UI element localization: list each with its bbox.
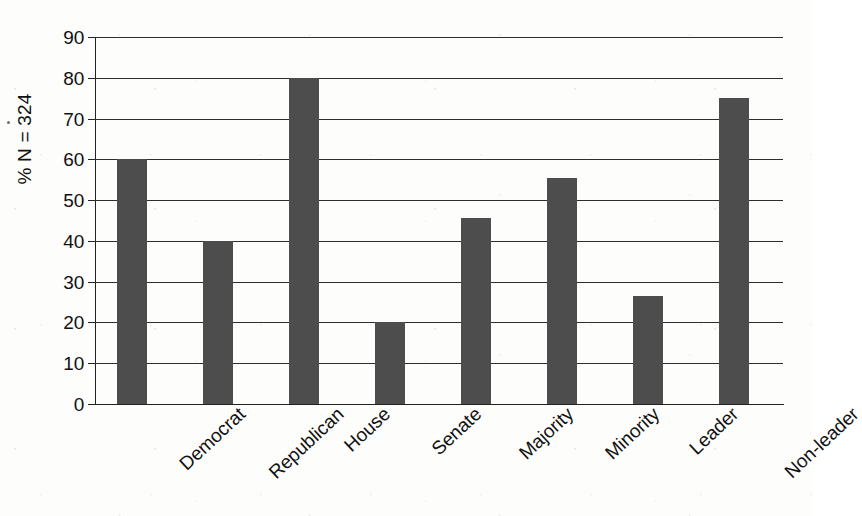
bar [289,78,319,404]
y-axis-tick-mark [88,119,95,120]
y-axis-tick-label: 30 [63,272,84,291]
y-axis-tick-mark [88,282,95,283]
gridline [95,282,783,283]
y-axis-tick-mark [88,200,95,201]
x-axis-tick-label: Minority [602,404,664,463]
y-axis-tick-mark [88,363,95,364]
gridline [95,119,783,120]
y-axis-tick-labels: 9080706050403020100 [0,37,84,404]
x-axis-tick-label: Democrat [176,404,249,474]
gridline [95,200,783,201]
y-axis-tick-label: 70 [63,109,84,128]
x-axis-tick-label: Non-leader [781,404,862,482]
bar [547,178,577,404]
x-axis-tick-label: Senate [428,404,485,459]
bar [461,218,491,404]
y-axis-tick-mark [88,78,95,79]
bar [633,296,663,404]
y-axis-tick-mark [88,322,95,323]
y-axis-tick-label: 80 [63,68,84,87]
y-axis-tick-label: 10 [63,354,84,373]
y-axis-tick-label: 20 [63,313,84,332]
y-axis-tick-mark [88,159,95,160]
x-axis-tick-label: Majority [516,404,578,463]
gridline [95,37,783,38]
x-axis-tick-label: Leader [686,404,742,459]
gridline [95,78,783,79]
bar [117,159,147,404]
y-axis-tick-mark [88,37,95,38]
y-axis-tick-label: 60 [63,150,84,169]
x-axis-tick-labels: DemocratRepublicanHouseSenateMajorityMin… [0,404,812,516]
y-axis-tick-label: 50 [63,191,84,210]
y-axis-tick-label: 90 [63,28,84,47]
gridline [95,159,783,160]
bar [203,241,233,404]
y-axis-tick-mark [88,241,95,242]
gridline [95,322,783,323]
y-axis-tick-label: 40 [63,231,84,250]
x-axis-tick-label: House [341,404,394,456]
gridline [95,363,783,364]
x-axis-tick-label: Republican [265,404,347,483]
gridline [95,241,783,242]
plot-area [95,37,783,404]
bar [375,322,405,404]
bar [719,98,749,404]
